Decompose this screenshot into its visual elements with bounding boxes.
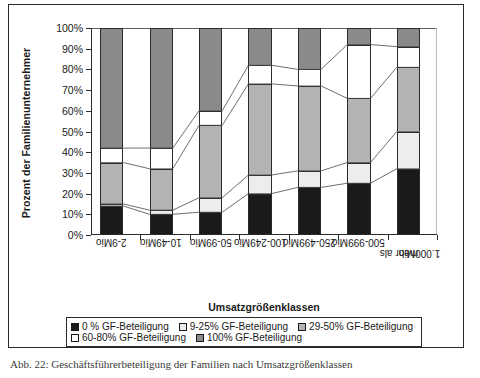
y-tick: [86, 49, 91, 50]
legend-swatch-icon: [71, 323, 79, 331]
bar-segment[interactable]: [397, 132, 420, 169]
legend-item[interactable]: 0 % GF-Beteiligung: [71, 321, 169, 332]
bar-stack[interactable]: [298, 28, 321, 235]
y-tick-label: 60%: [39, 105, 83, 117]
y-tick: [86, 173, 91, 174]
bar-segment[interactable]: [397, 47, 420, 68]
bar-segment[interactable]: [248, 84, 271, 175]
y-tick-label: 40%: [39, 146, 83, 158]
legend-label: 0 % GF-Beteiligung: [82, 321, 169, 332]
legend-swatch-icon: [298, 323, 306, 331]
bar-segment[interactable]: [298, 28, 321, 69]
legend-row-2: 60-80% GF-Beteiligung100% GF-Beteiligung: [71, 332, 417, 343]
x-tick-label-text: 2-9Mio: [106, 227, 117, 258]
x-tick-label: 100-249Mio: [232, 237, 288, 297]
y-tick: [86, 214, 91, 215]
x-tick: [437, 235, 438, 240]
y-tick-label: 100%: [39, 22, 83, 34]
legend-label: 60-80% GF-Beteiligung: [82, 332, 186, 343]
bar-segment[interactable]: [347, 163, 370, 184]
y-tick-label: 50%: [39, 126, 83, 138]
y-tick: [86, 235, 91, 236]
chart-legend: 0 % GF-Beteiligung9-25% GF-Beteiligung29…: [66, 317, 422, 347]
bar-segment[interactable]: [150, 28, 173, 148]
bar-segment[interactable]: [347, 98, 370, 162]
y-axis-line: [91, 28, 92, 235]
bar-stack[interactable]: [248, 28, 271, 235]
x-tick-label-text: 50-99Mio: [205, 222, 216, 264]
legend-swatch-icon: [196, 334, 204, 342]
x-tick-label: 50-99Mio: [183, 237, 239, 297]
bar-segment[interactable]: [248, 28, 271, 65]
y-tick-label: 20%: [39, 188, 83, 200]
bar-segment[interactable]: [199, 28, 222, 111]
y-tick: [86, 90, 91, 91]
bar-segment[interactable]: [100, 148, 123, 162]
legend-label: 9-25% GF-Beteiligung: [190, 321, 288, 332]
y-tick-label: 80%: [39, 63, 83, 75]
y-tick-label: 30%: [39, 167, 83, 179]
bar-stack[interactable]: [150, 28, 173, 235]
bar-segment[interactable]: [100, 163, 123, 204]
legend-item[interactable]: 100% GF-Beteiligung: [196, 332, 302, 343]
x-tick-label-text: 500-999Mio: [353, 216, 364, 269]
x-tick-label-text: 100-249Mio: [255, 216, 266, 269]
legend-row-1: 0 % GF-Beteiligung9-25% GF-Beteiligung29…: [71, 321, 417, 332]
x-tick-label: 500-999Mio: [331, 237, 387, 297]
chart-figure-frame: Prozent der Familienunternehmer 0%10%20%…: [8, 4, 464, 348]
x-tick-label: 250-499Mio: [281, 237, 337, 297]
bar-segment[interactable]: [347, 45, 370, 99]
y-tick-label: 10%: [39, 208, 83, 220]
bar-stack[interactable]: [100, 28, 123, 235]
bar-segment[interactable]: [298, 86, 321, 171]
legend-swatch-icon: [71, 334, 79, 342]
y-tick-label: 0%: [39, 229, 83, 241]
x-tick-label-text: mehr als1.000Mio: [392, 233, 425, 274]
bar-segment[interactable]: [298, 171, 321, 188]
bar-segment[interactable]: [100, 204, 123, 206]
x-tick-label: 10-49Mio: [133, 237, 189, 297]
bar-segment[interactable]: [100, 28, 123, 148]
legend-item[interactable]: 29-50% GF-Beteiligung: [298, 321, 413, 332]
y-tick: [86, 28, 91, 29]
y-tick-label: 90%: [39, 43, 83, 55]
legend-item[interactable]: 9-25% GF-Beteiligung: [179, 321, 288, 332]
bar-segment[interactable]: [248, 175, 271, 194]
y-tick: [86, 152, 91, 153]
bar-segment[interactable]: [199, 125, 222, 197]
x-axis-title: Umsatzgrößenklassen: [91, 301, 437, 313]
bar-segment[interactable]: [150, 169, 173, 210]
bar-segment[interactable]: [347, 28, 370, 45]
bar-stack[interactable]: [347, 28, 370, 235]
bar-segment[interactable]: [298, 69, 321, 86]
plot-right-border: [436, 28, 437, 235]
y-tick: [86, 132, 91, 133]
bar-stack[interactable]: [397, 28, 420, 235]
figure-caption: Abb. 22: Geschäftsführerbeteiligung der …: [10, 358, 472, 370]
y-tick: [86, 111, 91, 112]
bar-segment[interactable]: [397, 169, 420, 235]
x-axis-tick-labels: 2-9Mio10-49Mio50-99Mio100-249Mio250-499M…: [91, 237, 437, 299]
bar-segment[interactable]: [199, 198, 222, 212]
y-tick: [86, 194, 91, 195]
x-tick-label-text: 250-499Mio: [304, 216, 315, 269]
y-axis-title-text: Prozent der Familienunternehmer: [20, 48, 32, 219]
plot-area: 0%10%20%30%40%50%60%70%80%90%100%: [91, 28, 437, 235]
y-tick: [86, 69, 91, 70]
x-tick-label: mehr als1.000Mio: [380, 237, 436, 297]
legend-label: 29-50% GF-Beteiligung: [309, 321, 413, 332]
legend-swatch-icon: [179, 323, 187, 331]
bar-segment[interactable]: [397, 67, 420, 131]
bar-stack[interactable]: [199, 28, 222, 235]
legend-label: 100% GF-Beteiligung: [207, 332, 302, 343]
bar-segment[interactable]: [150, 148, 173, 169]
y-axis-title: Prozent der Familienunternehmer: [17, 33, 35, 233]
x-tick-label-text: 10-49Mio: [156, 222, 167, 264]
bar-segment[interactable]: [397, 28, 420, 47]
bar-segment[interactable]: [248, 65, 271, 84]
bar-segment[interactable]: [199, 111, 222, 125]
bar-segment[interactable]: [150, 210, 173, 214]
x-tick-label: 2-9Mio: [84, 237, 140, 297]
legend-item[interactable]: 60-80% GF-Beteiligung: [71, 332, 186, 343]
y-tick-label: 70%: [39, 84, 83, 96]
